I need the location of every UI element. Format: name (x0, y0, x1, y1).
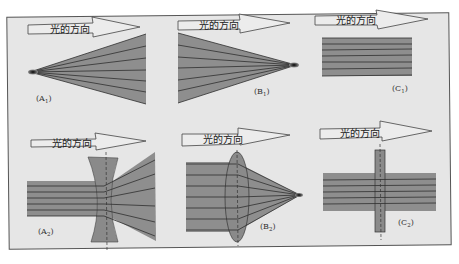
focal-point (295, 193, 303, 197)
figure-label-c2: (C2) (398, 218, 414, 228)
arrow-label: 光的方向 (52, 137, 92, 149)
arrow-label: 光的方向 (340, 127, 380, 139)
arrow-label: 光的方向 (50, 23, 90, 35)
figure-label-c1: (C1) (392, 84, 408, 94)
arrow-label: 光的方向 (336, 14, 376, 26)
figure-label-a1: (A1) (36, 94, 52, 104)
lens-optics-diagram: 光的方向 (A1) 光的方向 ( (0, 0, 459, 264)
focal-point (289, 63, 299, 68)
arrow-label: 光的方向 (199, 19, 239, 31)
flat-plate (375, 150, 385, 232)
figure-label-a2: (A2) (38, 227, 54, 237)
arrow-label: 光的方向 (203, 133, 243, 145)
figure-label-b1: (B1) (254, 87, 270, 97)
point-source (28, 70, 38, 75)
figure-label-b2: (B2) (260, 222, 276, 232)
